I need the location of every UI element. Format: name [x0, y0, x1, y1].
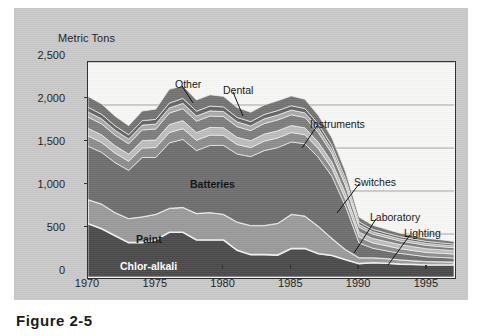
series-label-dental: Dental	[223, 84, 253, 96]
y-axis-tick-mark	[84, 140, 88, 142]
figure-panel: Metric Tons 2,5002,0001,5001,0005000 197…	[14, 8, 468, 300]
y-axis-tick-label: 500	[21, 221, 65, 233]
series-label-chlor-alkali: Chlor-alkali	[120, 260, 177, 272]
y-axis-tick-mark	[84, 226, 88, 228]
series-label-instruments: Instruments	[310, 118, 365, 130]
x-axis-tick-label: 1990	[346, 277, 370, 289]
x-axis-tick-label: 1985	[278, 277, 302, 289]
figure-caption: Figure 2-5	[16, 312, 93, 329]
y-axis-tick-label: 2,000	[21, 92, 65, 104]
series-label-other: Other	[175, 78, 201, 90]
x-axis-tick-label: 1970	[75, 277, 99, 289]
series-label-paint: Paint	[136, 233, 162, 245]
x-axis-tick-mark	[222, 265, 224, 269]
y-axis-tick-label: 2,500	[21, 49, 65, 61]
y-axis-title: Metric Tons	[58, 32, 115, 44]
y-axis-tick-mark	[84, 183, 88, 185]
x-axis-tick-label: 1975	[143, 277, 167, 289]
y-axis-tick-label: 1,000	[21, 178, 65, 190]
x-axis-tick-mark	[290, 265, 292, 269]
y-axis-tick-mark	[84, 97, 88, 99]
x-axis-tick-mark	[357, 265, 359, 269]
series-label-switches: Switches	[354, 176, 396, 188]
x-axis-tick-mark	[425, 265, 427, 269]
x-axis-tick-label: 1980	[210, 277, 234, 289]
series-label-batteries: Batteries	[190, 178, 235, 190]
series-label-laboratory: Laboratory	[370, 211, 420, 223]
y-axis-tick-label: 1,500	[21, 135, 65, 147]
x-axis-tick-label: 1995	[414, 277, 438, 289]
series-label-lighting: Lighting	[404, 227, 441, 239]
plot-area	[87, 61, 456, 279]
y-axis-tick-label: 0	[21, 264, 65, 276]
